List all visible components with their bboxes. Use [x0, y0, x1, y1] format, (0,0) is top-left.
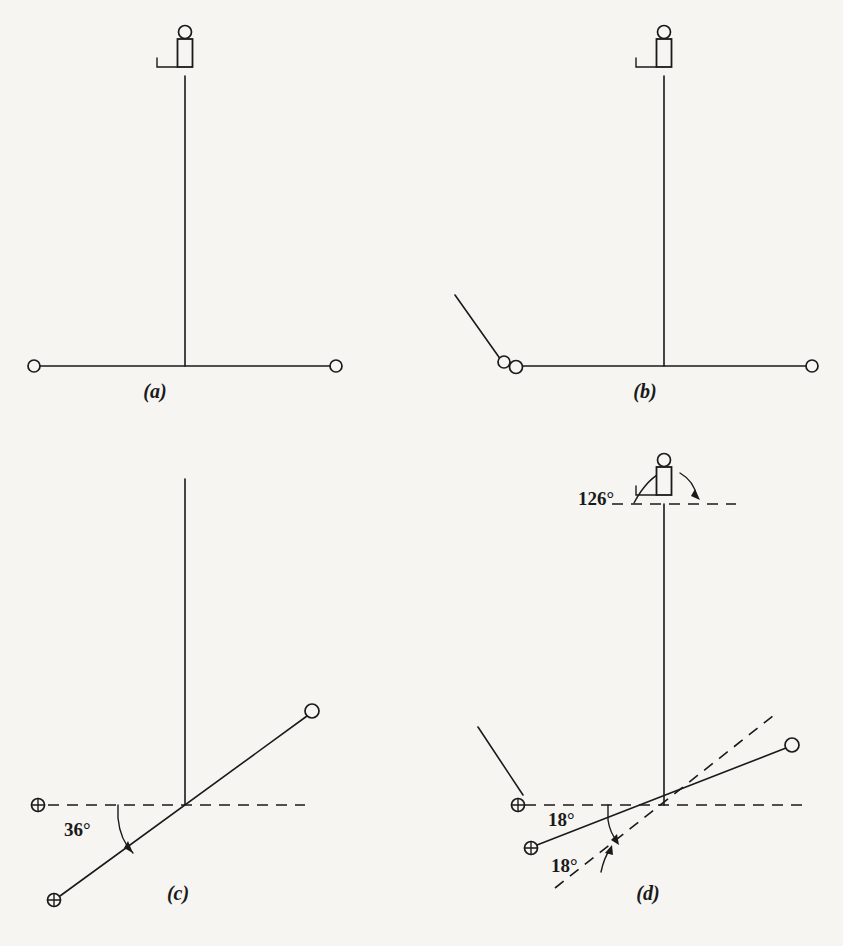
panel-label-d: (d): [618, 882, 678, 905]
angle-label-36: 36°: [64, 819, 91, 840]
crossarm-c: [60, 716, 307, 896]
crossed-circle-terminal: [525, 842, 538, 855]
open-circle-terminal: [28, 360, 40, 372]
open-circle-terminal: [305, 704, 319, 718]
panel-c-graphic: 36°: [32, 479, 320, 907]
panel-a-graphic: [28, 26, 342, 373]
reference-axis-d-inclined: [555, 712, 778, 888]
open-circle-terminal: [510, 361, 523, 374]
mast-head-instrument: [636, 454, 672, 496]
open-circle-terminal: [498, 356, 510, 368]
mast-head-instrument: [636, 26, 672, 68]
angle-label-18-upper: 18°: [548, 809, 575, 830]
angle-arrowhead-18-lower: [605, 845, 613, 855]
angle-label-126: 126°: [578, 488, 614, 509]
open-circle-terminal: [785, 738, 799, 752]
angle-arrowhead-18-upper: [611, 834, 619, 845]
figure-canvas: 36°: [0, 0, 843, 946]
open-circle-terminal: [330, 360, 342, 372]
panel-label-b: (b): [615, 380, 675, 403]
panel-label-c: (c): [148, 882, 208, 905]
panel-label-a: (a): [125, 380, 185, 403]
angle-label-18-lower: 18°: [551, 855, 578, 876]
guy-line-b: [455, 295, 501, 360]
open-circle-terminal: [806, 360, 818, 372]
crossed-circle-terminal: [48, 894, 61, 907]
antenna-orientation-figure: 36°: [0, 0, 843, 946]
mast-head-instrument: [157, 26, 193, 68]
crossed-circle-terminal: [512, 799, 525, 812]
crossarm-d: [537, 748, 786, 845]
panel-b-graphic: [455, 26, 818, 374]
crossed-circle-terminal: [32, 799, 45, 812]
angle-arrowhead-126: [691, 489, 700, 500]
panel-d-graphic: 126° 18° 18°: [478, 454, 810, 889]
guy-line-d: [478, 727, 523, 795]
